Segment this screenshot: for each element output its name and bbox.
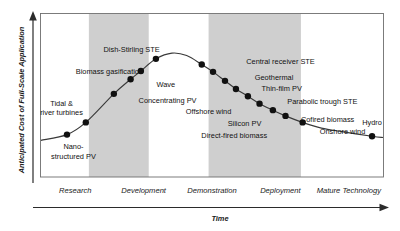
data-point (153, 56, 159, 62)
chart-canvas: Nano-structured PVTidal &river turbinesB… (0, 0, 400, 231)
technology-cost-curve-figure: Nano-structured PVTidal &river turbinesB… (0, 0, 400, 231)
point-label: Direct-fired biomass (201, 131, 267, 140)
data-point (270, 107, 276, 113)
point-label: Hydro (362, 118, 382, 127)
data-point (282, 113, 288, 119)
y-axis (29, 11, 37, 183)
stage-tick-deployment: Deployment (260, 186, 301, 195)
point-label: Thin-film PV (262, 84, 302, 93)
stage-tick-demonstration: Demonstration (187, 186, 236, 195)
point-label: Silicon PV (228, 119, 262, 128)
data-point (83, 119, 89, 125)
stage-tick-research: Research (59, 186, 92, 195)
stage-tick-development: Development (121, 186, 167, 195)
data-point (369, 133, 375, 139)
data-point (233, 86, 239, 92)
data-point (210, 69, 216, 75)
data-point (199, 61, 205, 67)
point-label: Onshore wind (320, 127, 366, 136)
point-label: Wave (157, 80, 176, 89)
data-point (222, 78, 228, 84)
point-label: Geothermal (255, 73, 294, 82)
point-label: Offshore wind (186, 107, 231, 116)
stage-labels: ResearchDevelopmentDemonstrationDeployme… (59, 186, 382, 195)
y-axis-title: Anticipated Cost of Full-Scale Applicati… (17, 26, 26, 174)
data-point (127, 76, 133, 82)
point-label: Parabolic trough STE (287, 97, 357, 106)
point-label: Central receiver STE (246, 57, 315, 66)
point-label: Tidal &river turbines (40, 99, 83, 117)
data-point (245, 93, 251, 99)
stage-band-deployment (209, 14, 301, 177)
point-label: Concentrating PV (139, 96, 197, 105)
x-axis-title: Time (211, 214, 228, 223)
point-label: Biomass gasification (76, 67, 143, 76)
data-point (64, 131, 70, 137)
point-label: Dish-Stirling STE (103, 45, 159, 54)
stage-tick-mature-technology: Mature Technology (317, 186, 383, 195)
data-point (256, 100, 262, 106)
data-point (111, 91, 117, 97)
x-axis (33, 204, 389, 212)
point-label: Cofired biomass (301, 115, 355, 124)
